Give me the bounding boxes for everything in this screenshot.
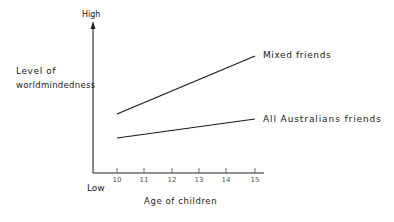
chart-canvas xyxy=(0,0,394,222)
x-tick-label-11: 11 xyxy=(140,177,149,184)
y-axis-arrow-icon xyxy=(91,21,96,29)
x-axis-label: Age of children xyxy=(144,197,217,206)
y-axis-label-line1: Level of xyxy=(16,67,56,76)
x-ticks xyxy=(117,168,255,173)
series-label-all-australians-friends: All Australians friends xyxy=(263,115,382,124)
x-tick-label-14: 14 xyxy=(222,177,231,184)
y-low-label: Low xyxy=(87,184,105,193)
x-tick-label-10: 10 xyxy=(113,177,122,184)
y-high-label: High xyxy=(82,11,100,19)
series-label-mixed-friends: Mixed friends xyxy=(263,51,331,60)
x-tick-label-12: 12 xyxy=(168,177,177,184)
series-line-mixed-friends xyxy=(117,56,255,114)
x-tick-label-15: 15 xyxy=(251,177,260,184)
series-line-all-australians-friends xyxy=(117,119,255,138)
x-tick-label-13: 13 xyxy=(195,177,204,184)
y-axis-label-line2: worldmindedness xyxy=(16,81,95,90)
